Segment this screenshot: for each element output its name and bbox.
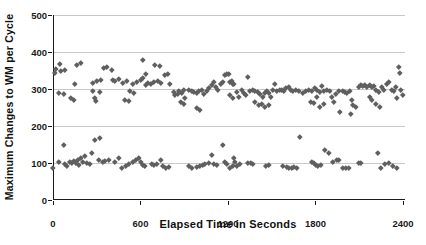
y-axis-title: Maximum Changes to WM per Cycle xyxy=(3,14,15,200)
data-point-marker xyxy=(61,91,66,96)
data-point-marker xyxy=(71,98,76,103)
data-point-marker xyxy=(126,98,131,103)
data-point-marker xyxy=(116,156,121,161)
gridline xyxy=(53,52,405,53)
data-point-marker xyxy=(358,160,363,165)
gridline xyxy=(53,15,405,16)
data-point-marker xyxy=(273,81,278,86)
x-axis-tick xyxy=(53,201,54,205)
data-point-marker xyxy=(377,104,382,109)
x-axis-tick xyxy=(228,201,229,205)
data-point-marker xyxy=(400,92,405,97)
plot-area: 01002003004005000600120018002400 xyxy=(53,15,403,200)
data-point-marker xyxy=(251,161,256,166)
data-point-marker xyxy=(394,96,399,101)
data-point-marker xyxy=(237,94,242,99)
data-point-marker xyxy=(220,143,225,148)
data-point-marker xyxy=(246,74,251,79)
data-point-marker xyxy=(394,165,399,170)
data-point-marker xyxy=(297,134,302,139)
data-point-marker xyxy=(97,135,102,140)
data-point-marker xyxy=(237,161,242,166)
data-point-marker xyxy=(157,64,162,69)
data-point-marker xyxy=(231,81,236,86)
data-point-marker xyxy=(89,150,94,155)
data-point-marker xyxy=(243,92,248,97)
data-point-marker xyxy=(294,165,299,170)
data-point-marker xyxy=(197,107,202,112)
data-point-marker xyxy=(97,89,102,94)
y-axis-line xyxy=(53,15,54,200)
data-point-marker xyxy=(57,61,62,66)
scatter-chart: Maximum Changes to WM per Cycle 01002003… xyxy=(0,0,426,245)
data-point-marker xyxy=(221,79,226,84)
x-axis-line xyxy=(53,199,405,200)
data-point-marker xyxy=(376,89,381,94)
x-axis-tick xyxy=(140,201,141,205)
data-point-marker xyxy=(87,162,92,167)
data-point-marker xyxy=(348,111,353,116)
data-point-marker xyxy=(314,94,319,99)
data-point-marker xyxy=(167,81,172,86)
data-point-marker xyxy=(78,60,83,65)
data-point-marker xyxy=(216,87,221,92)
y-axis-tick xyxy=(48,52,52,53)
y-tick-label: 0 xyxy=(17,196,47,205)
data-point-marker xyxy=(353,104,358,109)
data-point-marker xyxy=(61,142,66,147)
data-point-marker xyxy=(141,57,146,62)
data-point-marker xyxy=(131,90,136,95)
data-point-marker xyxy=(268,94,273,99)
data-point-marker xyxy=(381,87,386,92)
y-tick-label: 300 xyxy=(17,85,47,94)
data-point-marker xyxy=(226,71,231,76)
data-point-marker xyxy=(72,81,77,86)
y-axis-tick xyxy=(48,89,52,90)
data-point-marker xyxy=(397,70,402,75)
data-point-marker xyxy=(331,99,336,104)
y-axis-tick xyxy=(48,15,52,16)
data-point-marker xyxy=(214,162,219,167)
data-point-marker xyxy=(93,98,98,103)
y-tick-label: 400 xyxy=(17,48,47,57)
data-point-marker xyxy=(98,77,103,82)
data-point-marker xyxy=(181,101,186,106)
data-point-marker xyxy=(327,88,332,93)
data-point-marker xyxy=(230,95,235,100)
x-axis-tick xyxy=(403,201,404,205)
data-point-marker xyxy=(158,80,163,85)
data-point-marker xyxy=(142,163,147,168)
data-point-marker xyxy=(396,64,401,69)
data-point-marker xyxy=(62,68,67,73)
y-axis-tick xyxy=(48,126,52,127)
data-point-marker xyxy=(50,166,55,171)
y-tick-label: 200 xyxy=(17,122,47,131)
data-point-marker xyxy=(375,150,380,155)
data-point-marker xyxy=(158,157,163,162)
x-axis-title: Elapsed Time in Seconds xyxy=(53,218,403,230)
y-axis-tick xyxy=(48,163,52,164)
data-point-marker xyxy=(387,79,392,84)
y-tick-label: 500 xyxy=(17,11,47,20)
y-axis-tick xyxy=(48,200,52,201)
data-point-marker xyxy=(311,101,316,106)
data-point-marker xyxy=(337,109,342,114)
y-tick-label: 100 xyxy=(17,159,47,168)
data-point-marker xyxy=(209,152,214,157)
data-point-marker xyxy=(109,67,114,72)
x-axis-tick xyxy=(315,201,316,205)
data-point-marker xyxy=(378,165,383,170)
gridline xyxy=(53,126,405,127)
data-point-marker xyxy=(327,150,332,155)
